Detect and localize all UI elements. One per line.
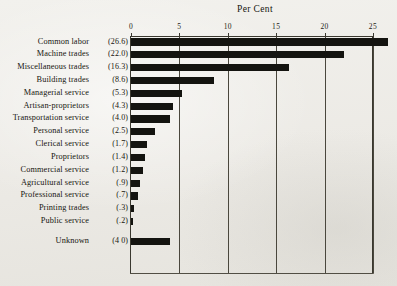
category-label: Commercial service xyxy=(21,165,89,174)
category-label: Common labor xyxy=(38,37,89,46)
category-label: Clerical service xyxy=(36,139,89,148)
category-label: Proprietors xyxy=(51,152,89,161)
bar xyxy=(131,192,138,199)
x-axis-tick-label: 25 xyxy=(369,22,377,31)
category-label: Unknown xyxy=(56,236,89,245)
bar-row: Public service(.2) xyxy=(0,216,397,229)
x-axis-tick-label: 0 xyxy=(129,22,133,31)
bar xyxy=(131,64,289,71)
category-value-label: (4.3) xyxy=(96,101,128,110)
bar-row: Miscellaneous trades(16.3) xyxy=(0,62,397,75)
bar xyxy=(131,141,147,148)
category-label: Machine trades xyxy=(37,49,89,58)
category-label: Printing trades xyxy=(39,203,89,212)
bar-row: Commercial service(1.2) xyxy=(0,164,397,177)
bar-row: Printing trades(.3) xyxy=(0,203,397,216)
bar xyxy=(131,38,388,45)
bar xyxy=(131,154,145,161)
category-label: Artisan-proprietors xyxy=(24,101,90,110)
category-label: Personal service xyxy=(33,126,89,135)
bar-row: Machine trades(22.0) xyxy=(0,49,397,62)
x-axis-tick-label: 20 xyxy=(320,22,328,31)
category-value-label: (5.3) xyxy=(96,88,128,97)
category-value-label: (.3) xyxy=(96,203,128,212)
bar xyxy=(131,205,134,212)
bar-row: Clerical service(1.7) xyxy=(0,139,397,152)
category-value-label: (1.2) xyxy=(96,165,128,174)
category-label: Transportation service xyxy=(13,113,89,122)
bar-row: Unknown(4 0) xyxy=(0,235,397,248)
category-value-label: (.7) xyxy=(96,190,128,199)
category-value-label: (1.4) xyxy=(96,152,128,161)
x-axis-tick-label: 10 xyxy=(224,22,232,31)
bar xyxy=(131,90,182,97)
bar xyxy=(131,77,214,84)
bar-row: Managerial service(5.3) xyxy=(0,87,397,100)
bar-row: Agricultural service(.9) xyxy=(0,177,397,190)
bar-row: Building trades(8.6) xyxy=(0,74,397,87)
category-label: Building trades xyxy=(37,75,89,84)
bar xyxy=(131,115,170,122)
category-value-label: (26.6) xyxy=(96,37,128,46)
bar xyxy=(131,103,173,110)
bar xyxy=(131,51,344,58)
category-value-label: (8.6) xyxy=(96,75,128,84)
category-value-label: (16.3) xyxy=(96,62,128,71)
category-value-label: (.2) xyxy=(96,216,128,225)
category-label: Managerial service xyxy=(24,88,89,97)
bar-row: Proprietors(1.4) xyxy=(0,151,397,164)
category-label: Agricultural service xyxy=(21,178,89,187)
category-value-label: (.9) xyxy=(96,178,128,187)
category-value-label: (22.0) xyxy=(96,49,128,58)
category-label: Public service xyxy=(41,216,89,225)
bar-row: Personal service(2.5) xyxy=(0,126,397,139)
bar-row: Professional service(.7) xyxy=(0,190,397,203)
category-label: Professional service xyxy=(20,190,89,199)
category-value-label: (2.5) xyxy=(96,126,128,135)
x-axis-tick-label: 5 xyxy=(177,22,181,31)
bar xyxy=(131,238,170,245)
category-value-label: (4 0) xyxy=(96,236,128,245)
category-value-label: (4.0) xyxy=(96,113,128,122)
bar-row: Transportation service(4.0) xyxy=(0,113,397,126)
chart-title: Per Cent xyxy=(215,4,295,14)
bar xyxy=(131,218,133,225)
bar xyxy=(131,180,140,187)
category-value-label: (1.7) xyxy=(96,139,128,148)
bar xyxy=(131,128,155,135)
frame-bottom-edge xyxy=(130,273,374,274)
category-label: Miscellaneous trades xyxy=(17,62,89,71)
bar-row: Artisan-proprietors(4.3) xyxy=(0,100,397,113)
bar-rows: Common labor(26.6)Machine trades(22.0)Mi… xyxy=(0,36,397,248)
bar xyxy=(131,167,143,174)
x-axis-tick-label: 15 xyxy=(272,22,280,31)
bar-row: Common labor(26.6) xyxy=(0,36,397,49)
